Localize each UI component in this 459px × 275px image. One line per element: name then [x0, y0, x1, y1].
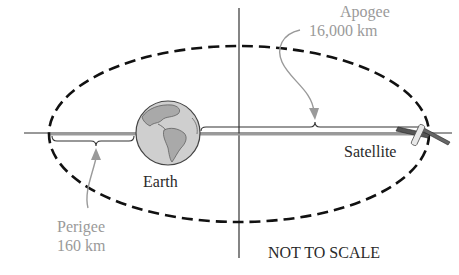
scale-note: NOT TO SCALE [268, 245, 380, 261]
perigee-arrowhead [91, 148, 101, 160]
perigee-arrow [87, 158, 96, 208]
satellite-label: Satellite [344, 144, 396, 160]
earth-globe-icon [136, 101, 200, 165]
apogee-arrow [280, 30, 314, 112]
apogee-label: Apogee [340, 4, 390, 20]
apogee-arrowhead [309, 108, 319, 120]
apogee-distance: 16,000 km [309, 23, 377, 39]
perigee-label: Perigee [57, 219, 105, 235]
perigee-distance: 160 km [57, 238, 105, 254]
apogee-brace [201, 122, 425, 131]
perigee-brace [52, 136, 134, 146]
earth-label: Earth [143, 174, 178, 190]
orbit-diagram: Apogee 16,000 km Earth Satellite Perigee… [0, 0, 459, 275]
